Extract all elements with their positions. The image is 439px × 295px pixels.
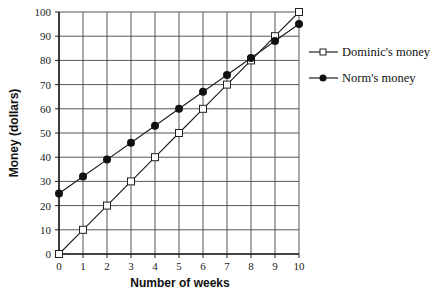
x-tick-label: 1 [80,260,86,272]
open-square-marker-icon [56,251,63,258]
line-chart: 012345678910 0102030405060708090100 Numb… [0,0,439,295]
y-axis-title: Money (dollars) [7,89,21,178]
x-tick-label: 5 [176,260,182,272]
open-square-marker-icon [224,81,231,88]
x-tick-labels: 012345678910 [56,260,305,272]
filled-circle-marker-icon [79,173,87,181]
x-tick-label: 7 [224,260,230,272]
x-tick-label: 3 [128,260,134,272]
open-square-marker-icon [152,154,159,161]
filled-circle-marker-icon [295,20,303,28]
x-tick-label: 4 [152,260,158,272]
legend-label-dominic: Dominic's money [342,45,431,59]
filled-circle-marker-icon [55,190,63,198]
open-square-marker-icon [176,130,183,137]
y-tick-label: 30 [40,175,52,187]
legend-item-dominic: Dominic's money [309,45,431,59]
filled-circle-marker-icon [247,54,255,62]
open-square-marker-icon [128,178,135,185]
y-tick-label: 0 [46,248,52,260]
filled-circle-marker-icon [320,75,327,82]
y-tick-label: 100 [35,6,52,18]
y-tick-label: 10 [40,224,52,236]
filled-circle-marker-icon [175,105,183,113]
x-tick-label: 8 [248,260,254,272]
x-tick-label: 9 [272,260,278,272]
open-square-marker-icon [104,202,111,209]
y-tick-label: 50 [40,127,52,139]
open-square-marker-icon [320,49,326,55]
filled-circle-marker-icon [271,37,279,45]
y-tick-label: 80 [40,54,52,66]
filled-circle-marker-icon [127,139,135,147]
filled-circle-marker-icon [151,122,159,130]
x-tick-label: 6 [200,260,206,272]
legend: Dominic's money Norm's money [309,45,431,85]
open-square-marker-icon [200,105,207,112]
y-tick-label: 40 [40,151,52,163]
legend-item-norm: Norm's money [309,71,416,85]
y-tick-label: 70 [40,79,52,91]
y-tick-label: 20 [40,200,52,212]
filled-circle-marker-icon [223,71,231,79]
filled-circle-marker-icon [103,156,111,164]
y-tick-label: 90 [40,30,52,42]
x-tick-label: 0 [56,260,62,272]
filled-circle-marker-icon [199,88,207,96]
y-tick-labels: 0102030405060708090100 [35,6,52,260]
x-axis-title: Number of weeks [130,276,230,290]
x-tick-label: 2 [104,260,110,272]
open-square-marker-icon [296,9,303,16]
legend-label-norm: Norm's money [342,71,416,85]
y-tick-label: 60 [40,103,52,115]
open-square-marker-icon [80,226,87,233]
x-tick-label: 10 [294,260,306,272]
